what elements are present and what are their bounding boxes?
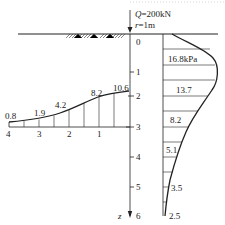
vertical-stress-value-1: 13.7: [176, 85, 192, 95]
depth-axis-label: z: [117, 211, 122, 221]
horizontal-stress-value-4: 10.6: [113, 83, 129, 93]
vertical-stress-value-2: 8.2: [170, 115, 181, 125]
vertical-stress-value-3: 5.1: [166, 145, 177, 155]
horizontal-stress-value-2: 4.2: [55, 100, 66, 110]
load-q-text: Q=200kN: [135, 9, 172, 19]
depth-tick-3: 3: [136, 122, 141, 132]
horizontal-stress-value-0: 0.8: [5, 111, 17, 121]
horizontal-stress-distribution: 0.8 1.9 4.2 8.2 10.6 4 3 2 1: [5, 83, 130, 139]
horizontal-stress-value-3: 8.2: [91, 88, 102, 98]
depth-tick-1: 1: [136, 67, 141, 77]
depth-tick-2: 2: [136, 91, 141, 101]
vertical-stress-value-5: 2.5: [169, 211, 181, 221]
load-r-text: r=1m: [135, 20, 155, 30]
depth-axis-arrow-icon: [128, 211, 132, 218]
vertical-stress-distribution: 16.8kPa 13.7 8.2 5.1 3.5 2.5: [163, 34, 217, 221]
vertical-stress-value-4: 3.5: [171, 183, 183, 193]
horizontal-stress-value-1: 1.9: [34, 108, 46, 118]
distance-tick-2: 2: [67, 129, 72, 139]
distance-tick-3: 3: [37, 129, 42, 139]
depth-tick-0: 0: [136, 37, 141, 47]
depth-tick-5: 5: [136, 182, 141, 192]
distance-tick-4: 4: [6, 129, 11, 139]
stress-distribution-diagram: Q=200kN r=1m z 0 1 2 3 4 5 6: [0, 0, 225, 225]
distance-tick-1: 1: [97, 129, 102, 139]
load-arrow-head-icon: [128, 27, 133, 33]
vertical-stress-value-0: 16.8kPa: [168, 54, 197, 64]
depth-tick-4: 4: [136, 152, 141, 162]
depth-tick-6: 6: [136, 211, 141, 221]
